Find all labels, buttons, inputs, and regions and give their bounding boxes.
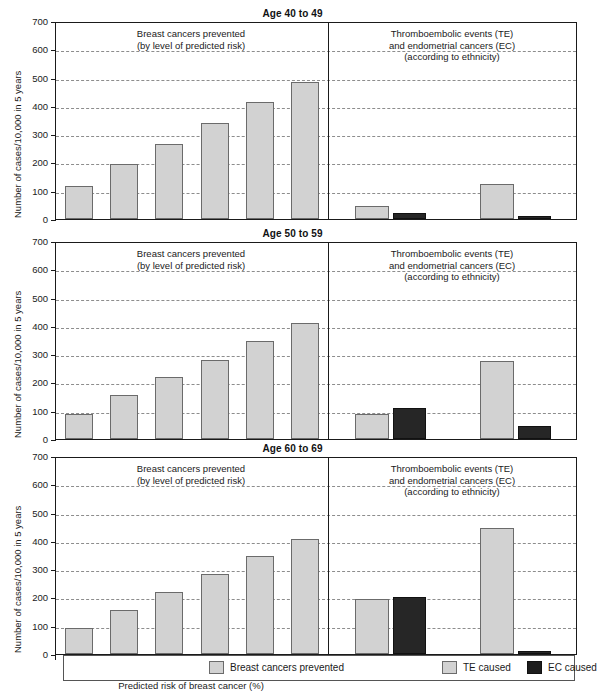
y-tick-label: 700 (22, 452, 48, 462)
chart-legend: Breast cancers preventedTE causedEC caus… (63, 655, 575, 681)
y-tick-label: 400 (22, 537, 48, 547)
panel-title: Age 60 to 69 (0, 443, 585, 454)
gridline (56, 515, 576, 516)
legend-swatch-dark (527, 661, 542, 674)
left-region-annotation-line1: Breast cancers prevented (55, 463, 327, 475)
right-region-annotation-line2: and endometrial cancers (EC) (327, 475, 577, 487)
legend-swatch-light (209, 661, 224, 674)
right-region-annotation-line1: Thromboembolic events (TE) (327, 463, 577, 475)
bar-breast-cancers-prevented (155, 592, 183, 654)
bar-ec-caused (518, 651, 552, 654)
y-tick-label: 600 (22, 481, 48, 491)
legend-item: EC caused (527, 661, 597, 674)
bar-breast-cancers-prevented (201, 574, 229, 654)
legend-item-label: TE caused (463, 662, 511, 673)
bar-ec-caused (393, 597, 427, 654)
bar-breast-cancers-prevented (246, 556, 274, 654)
left-region-annotation: Breast cancers prevented(by level of pre… (55, 463, 327, 486)
bar-breast-cancers-prevented (65, 628, 93, 654)
y-tick-label: 200 (22, 594, 48, 604)
bar-breast-cancers-prevented (291, 539, 319, 654)
y-tick-label: 0 (22, 650, 48, 660)
left-region-annotation-line2: (by level of predicted risk) (55, 475, 327, 487)
x-axis-label: Predicted risk of breast cancer (%) (118, 680, 264, 691)
legend-item: Breast cancers prevented (209, 661, 344, 674)
y-tick-label: 100 (22, 622, 48, 632)
legend-item-label: EC caused (548, 662, 597, 673)
legend-item: TE caused (442, 661, 511, 674)
x-tick-mark (55, 655, 56, 660)
legend-item-label: Breast cancers prevented (230, 662, 344, 673)
bar-te-caused (480, 528, 514, 654)
legend-swatch-light (442, 661, 457, 674)
bar-breast-cancers-prevented (110, 610, 138, 654)
right-region-annotation: Thromboembolic events (TE)and endometria… (327, 463, 577, 498)
right-region-annotation-line3: (according to ethnicity) (327, 486, 577, 498)
bar-te-caused (355, 599, 389, 654)
y-tick-label: 500 (22, 509, 48, 519)
y-tick-label: 300 (22, 565, 48, 575)
